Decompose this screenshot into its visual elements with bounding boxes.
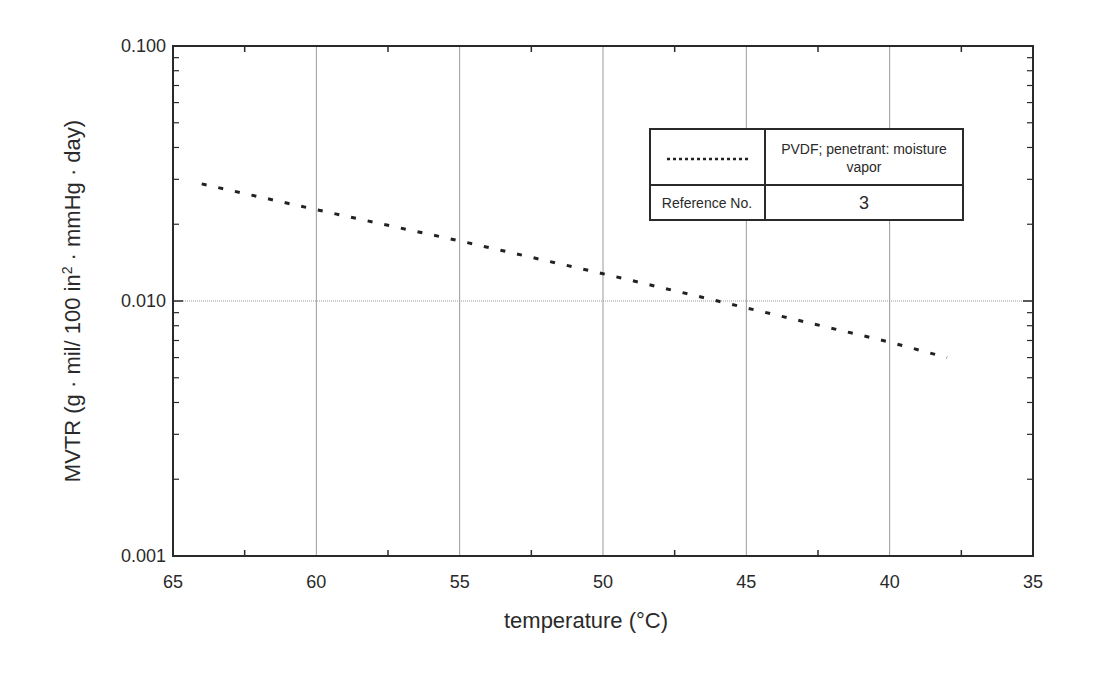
x-tick-label: 65 <box>163 572 183 592</box>
x-tick-label: 35 <box>1023 572 1043 592</box>
y-tick-label: 0.010 <box>121 291 166 311</box>
y-tick-labels: 0.0010.0100.100 <box>121 36 166 566</box>
x-tick-label: 45 <box>736 572 756 592</box>
legend-reference-value: 3 <box>859 193 869 213</box>
x-axis-label: temperature (°C) <box>504 608 668 633</box>
x-tick-label: 60 <box>306 572 326 592</box>
y-axis-label: MVTR (g · mil/ 100 in2 · mmHg · day) <box>59 120 85 482</box>
x-tick-label: 55 <box>450 572 470 592</box>
legend: PVDF; penetrant: moisture vapor Referenc… <box>650 129 963 220</box>
legend-series-label-line1: PVDF; penetrant: moisture <box>781 141 947 157</box>
x-tick-label: 40 <box>880 572 900 592</box>
x-tick-labels: 65605550454035 <box>163 572 1043 592</box>
grid-lines <box>173 46 1033 556</box>
legend-series-label-line2: vapor <box>846 159 881 175</box>
legend-reference-label: Reference No. <box>662 195 752 211</box>
x-tick-label: 50 <box>593 572 613 592</box>
y-tick-label: 0.001 <box>121 546 166 566</box>
y-tick-label: 0.100 <box>121 36 166 56</box>
chart: 65605550454035 0.0010.0100.100 temperatu… <box>0 0 1100 678</box>
